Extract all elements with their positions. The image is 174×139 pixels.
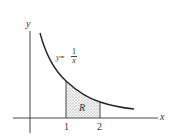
fraction-denominator: x xyxy=(72,57,76,65)
region-label: R xyxy=(79,103,85,113)
y-axis-label: y xyxy=(26,19,30,29)
curve-label-fraction: 1 x xyxy=(71,48,77,65)
x-axis-label: x xyxy=(160,112,164,122)
tick-label-1: 1 xyxy=(64,122,69,132)
curve-label-lhs: y= xyxy=(56,54,65,62)
tick-label-2: 2 xyxy=(97,122,102,132)
